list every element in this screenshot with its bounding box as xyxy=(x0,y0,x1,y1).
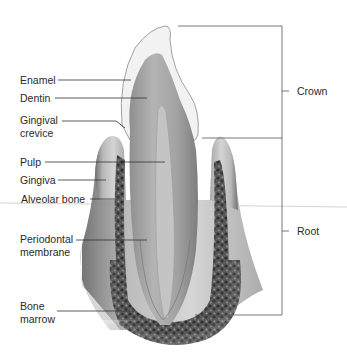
label-root: Root xyxy=(297,225,319,237)
label-bone-marrow-line1: Bone xyxy=(20,300,55,313)
label-periodontal-membrane-line1: Periodontal xyxy=(20,233,73,246)
label-dentin: Dentin xyxy=(20,92,50,104)
label-alveolar-bone: Alveolar bone xyxy=(21,193,85,205)
label-enamel: Enamel xyxy=(20,74,56,86)
label-gingival-crevice-line2: crevice xyxy=(20,127,58,140)
label-periodontal-membrane: Periodontal membrane xyxy=(20,233,73,258)
label-gingival-crevice-line1: Gingival xyxy=(20,114,58,127)
label-bone-marrow-line2: marrow xyxy=(20,313,55,326)
label-bone-marrow: Bone marrow xyxy=(20,300,55,325)
label-gingiva: Gingiva xyxy=(20,174,56,186)
label-gingival-crevice: Gingival crevice xyxy=(20,114,58,139)
label-crown: Crown xyxy=(297,85,327,97)
label-pulp: Pulp xyxy=(20,156,41,168)
label-periodontal-membrane-line2: membrane xyxy=(20,246,73,259)
